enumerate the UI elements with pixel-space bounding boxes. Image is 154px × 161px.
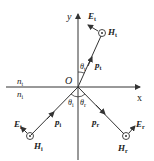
- incident-p-label: pi: [54, 117, 62, 128]
- incident-h-label: Hi: [33, 141, 43, 152]
- reflected-h-label: Hr: [117, 143, 128, 154]
- x-axis-label: x: [137, 92, 142, 103]
- incident-e-label: Ei: [13, 119, 22, 130]
- transmitted-e-label: Et: [87, 11, 96, 22]
- transmitted-p-label: pt: [94, 60, 102, 71]
- incident-p-arrow: [47, 112, 54, 119]
- reflected-e-label: Er: [135, 119, 145, 130]
- theta-t-label: θt: [80, 62, 86, 72]
- theta-i-label: θi: [68, 98, 74, 108]
- theta-t-arc: [78, 72, 84, 73]
- reflected-p-arrow: [96, 105, 105, 114]
- theta-r-label: θr: [80, 98, 86, 108]
- upper-medium-label: nt: [17, 76, 24, 87]
- origin-label: O: [65, 75, 72, 86]
- y-axis-label: y: [66, 11, 72, 22]
- transmitted-e-arrow: [88, 25, 98, 31]
- reflected-e-arrow: [129, 126, 135, 133]
- oblique-incidence-diagram: y x O nt ni Et Ht pt θt Ei Hi pi θi Er H…: [0, 0, 154, 161]
- transmitted-p-arrow: [88, 57, 92, 66]
- lower-medium-label: ni: [17, 89, 24, 100]
- reflected-p-label: pr: [91, 117, 100, 128]
- transmitted-h-label: Ht: [107, 27, 117, 38]
- incident-e-arrow: [21, 127, 27, 133]
